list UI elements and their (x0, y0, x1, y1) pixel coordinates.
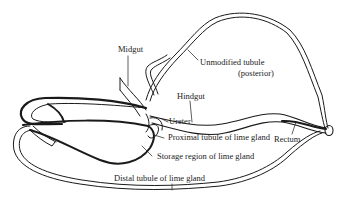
malpighian-tubule-diagram: Midgut Unmodified tubule (posterior) Hin… (0, 0, 343, 203)
midgut-shape (120, 78, 146, 116)
leader-unmodified-tubule (188, 50, 198, 60)
label-posterior: (posterior) (238, 69, 274, 78)
label-proximal-tubule: Proximal tubule of lime gland (168, 133, 270, 142)
label-hindgut: Hindgut (177, 92, 205, 101)
distal-inner-stub (30, 126, 56, 146)
label-midgut: Midgut (118, 45, 143, 54)
label-storage-region: Storage region of lime gland (157, 152, 254, 161)
label-unmodified-tubule: Unmodified tubule (200, 58, 264, 67)
storage-region-shape (23, 121, 154, 164)
unmodified-tubule-shape (146, 13, 328, 128)
label-ureter: Ureter (169, 117, 191, 126)
label-rectum: Rectum (274, 135, 300, 144)
upper-lime-gland-loop (21, 98, 149, 132)
label-distal-tubule: Distal tubule of lime gland (114, 174, 205, 183)
